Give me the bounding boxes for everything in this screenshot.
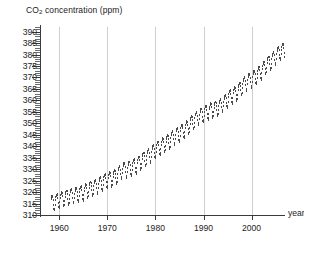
- y-tick-354: [35, 114, 40, 115]
- y-tick-375: [32, 66, 40, 67]
- data-point: [184, 131, 185, 133]
- data-point: [242, 92, 243, 94]
- data-point: [206, 106, 207, 108]
- y-tick-320: [32, 192, 40, 193]
- data-point: [115, 173, 116, 175]
- y-tick-315: [32, 204, 40, 205]
- data-point: [192, 119, 193, 121]
- y-tick-364: [35, 91, 40, 92]
- data-point: [127, 171, 128, 173]
- y-tick-316: [35, 201, 40, 202]
- data-point: [233, 92, 234, 94]
- data-point: [187, 121, 188, 123]
- y-tick-313: [35, 208, 40, 209]
- y-tick-358: [35, 105, 40, 106]
- y-tick-385: [32, 43, 40, 44]
- data-point: [281, 53, 282, 55]
- data-point: [284, 52, 285, 54]
- y-tick-345: [32, 135, 40, 136]
- gridline-1960: [59, 27, 60, 215]
- y-tick-328: [35, 174, 40, 175]
- data-point: [243, 80, 244, 82]
- y-tick-362: [35, 96, 40, 97]
- data-point: [93, 189, 94, 191]
- data-point: [179, 141, 180, 143]
- x-tick-2000: [252, 215, 253, 220]
- data-point: [198, 124, 199, 126]
- data-point: [101, 180, 102, 182]
- data-point: [132, 169, 133, 171]
- y-tick-359: [35, 103, 40, 104]
- data-point: [269, 56, 270, 58]
- data-point: [223, 101, 224, 103]
- data-point: [251, 87, 252, 89]
- data-point: [155, 157, 156, 159]
- data-point: [126, 175, 127, 177]
- data-point: [177, 128, 178, 130]
- data-point: [86, 184, 87, 186]
- data-point: [265, 73, 266, 75]
- x-tick-label-1990: 1990: [194, 223, 213, 233]
- data-point: [100, 177, 101, 179]
- data-point: [91, 185, 92, 187]
- data-point: [137, 162, 138, 164]
- data-point: [112, 184, 113, 186]
- data-point: [196, 112, 197, 114]
- y-tick-331: [35, 167, 40, 168]
- data-point: [91, 182, 92, 184]
- y-tick-337: [35, 153, 40, 154]
- data-point: [250, 77, 251, 79]
- data-point: [247, 83, 248, 85]
- y-axis-title-suffix: concentration (ppm): [43, 5, 123, 15]
- data-point: [146, 155, 147, 157]
- data-point: [223, 105, 224, 107]
- data-point: [110, 172, 111, 174]
- data-point: [160, 148, 161, 150]
- data-point: [62, 195, 63, 197]
- y-tick-322: [35, 188, 40, 189]
- data-point: [131, 175, 132, 177]
- data-point: [190, 123, 191, 125]
- data-point: [161, 144, 162, 146]
- data-point: [72, 192, 73, 194]
- data-point: [222, 109, 223, 111]
- data-point: [144, 152, 145, 154]
- data-point: [165, 145, 166, 147]
- data-point: [187, 124, 188, 126]
- data-point: [57, 194, 58, 196]
- data-point: [209, 108, 210, 110]
- data-point: [262, 65, 263, 67]
- y-tick-346: [35, 133, 40, 134]
- data-point: [199, 118, 200, 120]
- data-point: [176, 130, 177, 132]
- data-point: [169, 148, 170, 150]
- data-point: [54, 209, 55, 211]
- data-point: [278, 47, 279, 49]
- data-point: [92, 195, 93, 197]
- data-point: [213, 115, 214, 117]
- data-point: [141, 163, 142, 165]
- data-point: [271, 58, 272, 60]
- y-tick-344: [35, 137, 40, 138]
- data-point: [246, 88, 247, 90]
- data-point: [151, 156, 152, 158]
- data-point: [107, 185, 108, 187]
- y-tick-314: [35, 206, 40, 207]
- y-tick-361: [35, 98, 40, 99]
- data-point: [237, 98, 238, 100]
- data-point: [267, 59, 268, 61]
- x-tick-1960: [59, 215, 60, 220]
- data-point: [208, 117, 209, 119]
- data-point: [194, 117, 195, 119]
- data-point: [200, 111, 201, 113]
- data-point: [136, 173, 137, 175]
- y-tick-390: [32, 32, 40, 33]
- data-point: [267, 62, 268, 64]
- data-point: [117, 177, 118, 179]
- data-point: [103, 179, 104, 181]
- data-point: [79, 195, 80, 197]
- data-point: [218, 113, 219, 115]
- data-point: [103, 176, 104, 178]
- data-point: [89, 187, 90, 189]
- data-point: [158, 144, 159, 146]
